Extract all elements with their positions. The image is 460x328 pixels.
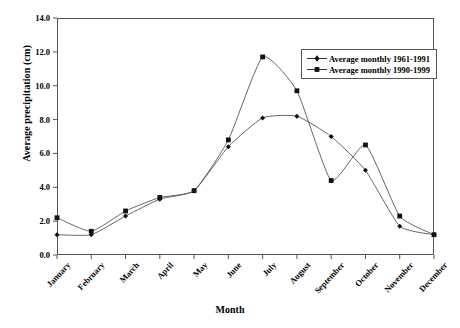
- chart-legend: Average monthly 1961-1991 Average monthl…: [301, 49, 437, 79]
- chart-container: Average precipitation (cm) 0.02.04.06.08…: [0, 0, 460, 328]
- diamond-marker-icon: [306, 53, 328, 64]
- y-axis-title: Average precipitation (cm): [21, 4, 32, 204]
- y-tick-label: 14.0: [16, 13, 50, 23]
- x-axis-title: Month: [0, 304, 460, 315]
- y-tick-label: 6.0: [16, 148, 50, 158]
- legend-item-1: Average monthly 1961-1991: [306, 53, 430, 64]
- legend-label-2: Average monthly 1990-1999: [329, 65, 430, 75]
- y-tick-label: 12.0: [16, 47, 50, 57]
- y-tick-label: 2.0: [16, 216, 50, 226]
- y-tick-label: 4.0: [16, 182, 50, 192]
- y-tick-label: 8.0: [16, 115, 50, 125]
- y-tick-label: 0.0: [16, 250, 50, 260]
- legend-label-1: Average monthly 1961-1991: [329, 54, 430, 64]
- legend-item-2: Average monthly 1990-1999: [306, 64, 430, 75]
- y-tick-label: 10.0: [16, 81, 50, 91]
- square-marker-icon: [306, 64, 328, 75]
